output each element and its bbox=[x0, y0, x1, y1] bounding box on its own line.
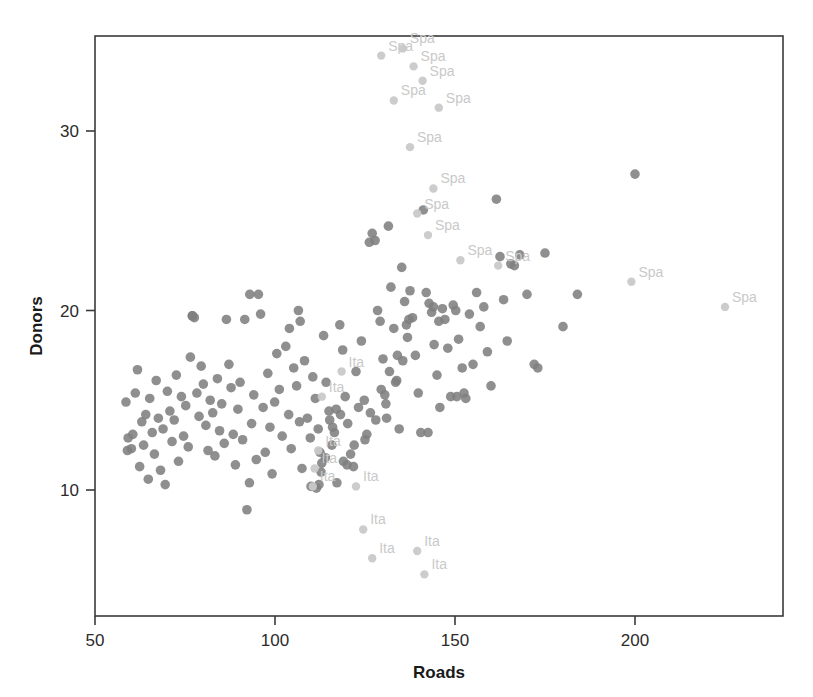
data-point bbox=[272, 349, 282, 359]
data-point bbox=[494, 261, 502, 269]
data-point bbox=[281, 342, 291, 352]
data-point bbox=[133, 365, 143, 375]
data-point bbox=[423, 428, 433, 438]
data-point bbox=[247, 419, 257, 429]
data-point bbox=[411, 351, 421, 361]
x-tick-label: 50 bbox=[86, 631, 105, 650]
y-tick-label: 20 bbox=[60, 302, 79, 321]
data-point bbox=[265, 422, 275, 432]
data-point-label: Ita bbox=[322, 450, 338, 466]
data-point bbox=[630, 169, 640, 179]
data-point-label: Ita bbox=[370, 511, 386, 527]
data-point bbox=[160, 480, 170, 490]
data-point bbox=[435, 103, 443, 111]
data-point bbox=[386, 282, 396, 292]
data-point-label: Ita bbox=[349, 354, 365, 370]
data-point-label: Spa bbox=[467, 242, 492, 258]
data-point bbox=[370, 236, 380, 246]
data-point bbox=[404, 315, 414, 325]
data-point bbox=[337, 367, 345, 375]
data-point bbox=[131, 388, 141, 398]
data-point bbox=[174, 456, 184, 466]
data-point bbox=[429, 184, 437, 192]
data-point-label: Spa bbox=[435, 217, 460, 233]
data-point bbox=[357, 336, 367, 346]
data-point bbox=[429, 302, 439, 312]
data-point bbox=[443, 343, 453, 353]
data-point bbox=[384, 221, 394, 231]
data-point bbox=[380, 390, 390, 400]
data-point bbox=[342, 460, 352, 470]
data-point bbox=[292, 381, 302, 391]
data-point bbox=[231, 460, 241, 470]
data-point bbox=[409, 62, 417, 70]
x-tick-label: 100 bbox=[261, 631, 289, 650]
data-point bbox=[242, 505, 252, 515]
data-point bbox=[297, 464, 307, 474]
data-point bbox=[284, 410, 294, 420]
data-point bbox=[486, 381, 496, 391]
data-point bbox=[335, 320, 345, 330]
data-point bbox=[457, 363, 467, 373]
data-point bbox=[177, 392, 187, 402]
data-point bbox=[186, 352, 196, 362]
y-tick-label: 30 bbox=[60, 122, 79, 141]
data-point bbox=[192, 388, 202, 398]
data-point bbox=[127, 444, 137, 454]
data-point bbox=[499, 295, 509, 305]
data-point bbox=[215, 426, 225, 436]
data-point bbox=[349, 440, 359, 450]
data-point bbox=[310, 464, 318, 472]
data-point bbox=[495, 252, 505, 262]
data-point bbox=[240, 315, 250, 325]
data-point bbox=[432, 370, 442, 380]
data-point bbox=[258, 403, 268, 413]
data-point bbox=[319, 331, 329, 341]
data-point bbox=[201, 421, 211, 431]
data-point bbox=[313, 424, 323, 434]
data-point bbox=[391, 378, 401, 388]
data-point bbox=[121, 397, 131, 407]
data-point bbox=[373, 306, 383, 316]
data-point bbox=[222, 315, 232, 325]
x-axis-title: Roads bbox=[413, 663, 465, 682]
data-point-label: Spa bbox=[638, 264, 663, 280]
scatter-plot: 50100150200102030 SpaSpaSpaSpaSpaSpaSpaS… bbox=[0, 0, 813, 697]
data-point-label: Spa bbox=[410, 30, 435, 46]
data-point bbox=[360, 435, 370, 445]
data-point-label: Ita bbox=[431, 556, 447, 572]
data-point bbox=[267, 469, 277, 479]
data-point bbox=[318, 392, 326, 400]
data-point-label: Spa bbox=[424, 196, 449, 212]
data-point bbox=[522, 290, 532, 300]
data-point bbox=[233, 404, 243, 414]
data-point bbox=[468, 360, 478, 370]
data-point bbox=[145, 394, 155, 404]
data-point bbox=[263, 369, 273, 379]
data-point bbox=[308, 372, 318, 382]
data-point bbox=[277, 431, 287, 441]
data-point bbox=[245, 290, 255, 300]
data-point bbox=[368, 554, 376, 562]
data-point bbox=[226, 383, 236, 393]
data-point bbox=[397, 263, 407, 273]
data-point bbox=[147, 428, 157, 438]
data-point-label: Spa bbox=[505, 248, 530, 264]
data-point bbox=[429, 340, 439, 350]
data-point bbox=[156, 465, 166, 475]
data-point bbox=[492, 194, 502, 204]
data-point bbox=[375, 316, 385, 326]
data-point bbox=[377, 51, 385, 59]
data-point bbox=[305, 433, 315, 443]
data-point bbox=[245, 478, 255, 488]
data-point bbox=[378, 354, 388, 364]
data-point bbox=[385, 367, 395, 377]
data-point bbox=[154, 413, 164, 423]
data-point bbox=[346, 449, 356, 459]
data-point bbox=[228, 430, 238, 440]
data-point bbox=[421, 288, 431, 298]
data-point bbox=[328, 422, 338, 432]
data-point-label: Ita bbox=[320, 468, 336, 484]
data-point bbox=[249, 390, 259, 400]
data-point bbox=[382, 413, 392, 423]
